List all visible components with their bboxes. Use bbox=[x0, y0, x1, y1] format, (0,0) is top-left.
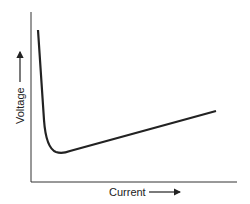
x-axis-label: Current bbox=[109, 186, 146, 198]
chart: Current Voltage bbox=[0, 0, 250, 204]
curve bbox=[38, 30, 216, 153]
y-axis-label: Voltage bbox=[14, 87, 26, 124]
